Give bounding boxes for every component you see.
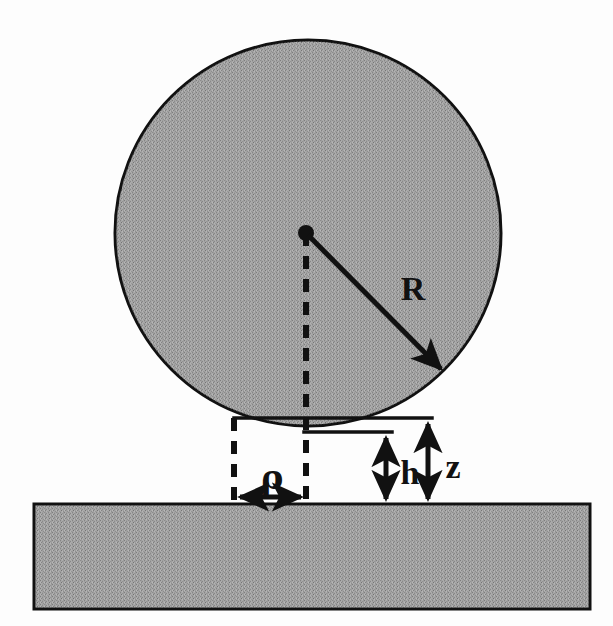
substrate-shape (34, 504, 590, 609)
gap-height-label: h (401, 454, 420, 491)
contact-radius-label: ρ (261, 457, 284, 497)
figure-root: R ρ h z (0, 0, 613, 626)
radius-label: R (401, 270, 426, 307)
total-height-label: z (445, 448, 460, 485)
sphere-on-substrate-diagram: R ρ h z (0, 0, 613, 626)
substrate-texture-overlay (36, 506, 589, 608)
